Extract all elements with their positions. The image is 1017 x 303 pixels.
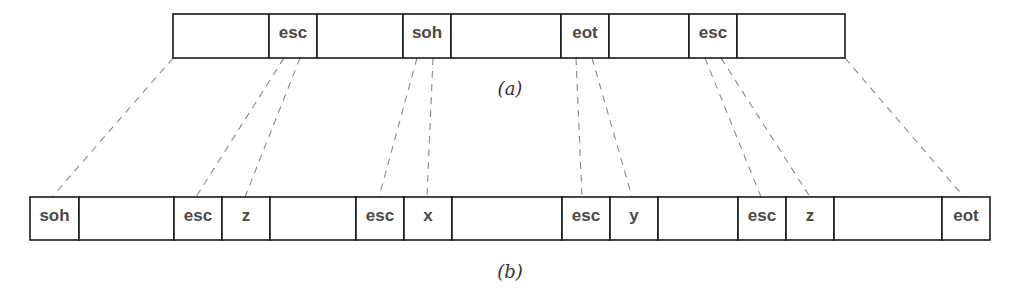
bottom-cell-esc: esc — [356, 197, 404, 240]
mapping-line — [721, 58, 810, 197]
top-cell-data — [737, 14, 845, 58]
mapping-line — [592, 58, 632, 197]
cell-label: esc — [279, 23, 307, 42]
bottom-cell-eot: eot — [942, 197, 990, 240]
top-cell-data — [451, 14, 561, 58]
cell-label: esc — [748, 206, 776, 225]
bottom-cell-z: z — [786, 197, 834, 240]
bottom-cell-data — [452, 197, 562, 240]
caption-a: (a) — [498, 78, 523, 99]
bottom-cell-esc: esc — [738, 197, 786, 240]
cell-label: x — [423, 206, 433, 225]
cell-box — [317, 14, 403, 58]
cell-box — [834, 197, 942, 240]
bottom-cell-esc: esc — [174, 197, 222, 240]
cell-label: z — [242, 206, 251, 225]
mapping-line — [705, 58, 761, 197]
cell-label: esc — [699, 23, 727, 42]
bottom-cell-data — [270, 197, 356, 240]
cell-label: esc — [366, 206, 394, 225]
top-cell-esc: esc — [269, 14, 317, 58]
cell-box — [173, 14, 269, 58]
top-cell-eot: eot — [561, 14, 609, 58]
bottom-cell-data — [834, 197, 942, 240]
bottom-cell-soh: soh — [30, 197, 79, 240]
bottom-cell-esc: esc — [562, 197, 610, 240]
cell-box — [658, 197, 738, 240]
cell-label: eot — [572, 23, 598, 42]
cell-box — [270, 197, 356, 240]
bottom-cell-z: z — [222, 197, 270, 240]
top-cell-data — [317, 14, 403, 58]
mapping-line — [379, 58, 417, 197]
cell-label: esc — [184, 206, 212, 225]
cell-label: y — [629, 206, 639, 225]
top-cell-soh: soh — [403, 14, 451, 58]
byte-stuffing-diagram: escsoheotesc sohesczescxescyesczeot (a) … — [0, 0, 1017, 303]
cell-box — [609, 14, 689, 58]
bottom-cell-y: y — [610, 197, 658, 240]
cell-box — [451, 14, 561, 58]
cell-label: eot — [953, 206, 979, 225]
top-cell-data — [173, 14, 269, 58]
mapping-line — [845, 58, 964, 197]
cell-label: esc — [572, 206, 600, 225]
stuffed-frame: sohesczescxescyesczeot — [30, 197, 990, 240]
mapping-line — [196, 58, 284, 197]
mapping-line — [52, 58, 173, 197]
bottom-cell-data — [658, 197, 738, 240]
mapping-line — [245, 58, 300, 197]
top-cell-esc: esc — [689, 14, 737, 58]
caption-b: (b) — [497, 261, 523, 282]
cell-box — [79, 197, 174, 240]
bottom-cell-data — [79, 197, 174, 240]
bottom-cell-x: x — [404, 197, 452, 240]
cell-label: z — [806, 206, 815, 225]
mapping-line — [427, 58, 433, 197]
cell-label: soh — [412, 23, 442, 42]
cell-box — [737, 14, 845, 58]
mapping-line — [576, 58, 582, 197]
top-cell-data — [609, 14, 689, 58]
original-frame: escsoheotesc — [173, 14, 845, 58]
cell-box — [452, 197, 562, 240]
cell-label: soh — [39, 206, 69, 225]
